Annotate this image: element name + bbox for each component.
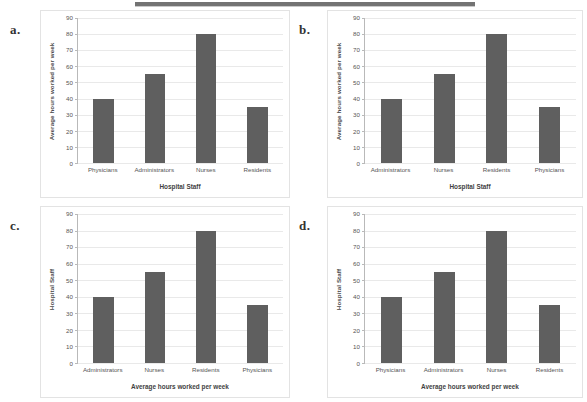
y-tick-label: 90 <box>353 211 360 217</box>
y-tick-label: 30 <box>66 112 73 118</box>
y-tick-label: 30 <box>353 112 360 118</box>
x-category-label: Residents <box>180 364 232 376</box>
y-axis-tick-labels-b: 0102030405060708090 <box>344 18 360 164</box>
y-tick-label: 40 <box>66 96 73 102</box>
y-tick-label: 20 <box>66 128 73 134</box>
y-tick-label: 50 <box>353 80 360 86</box>
y-tick-label: 40 <box>353 294 360 300</box>
chart-panel-b: b. Average hours worked per week01020304… <box>293 8 587 200</box>
x-category-label: Administrators <box>417 364 470 376</box>
y-tick-label: 70 <box>66 47 73 53</box>
bar-slot <box>232 18 283 163</box>
bar-slot <box>471 18 524 163</box>
y-tick-label: 80 <box>66 228 73 234</box>
x-category-label: Physicians <box>232 364 284 376</box>
chart-c: Hospital Staff0102030405060708090Adminis… <box>41 207 289 397</box>
chart-panel-a: a. Average hours worked per week01020304… <box>0 8 294 200</box>
y-tick-label: 60 <box>353 261 360 267</box>
bar-slot <box>418 18 471 163</box>
y-axis-title-text: Hospital Staff <box>49 268 56 309</box>
y-tick-label: 10 <box>353 344 360 350</box>
bar-physicians[interactable] <box>539 107 560 163</box>
y-tick-label: 30 <box>66 311 73 317</box>
bar-nurses[interactable] <box>196 34 217 163</box>
y-tick-label: 30 <box>353 311 360 317</box>
x-axis-category-labels-c: AdministratorsNursesResidentsPhysicians <box>77 364 283 376</box>
bar-slot <box>232 214 283 363</box>
x-axis-category-labels-d: PhysiciansAdministratorsNursesResidents <box>364 364 576 376</box>
scan-artifact-band-edge <box>135 6 475 7</box>
bar-slot <box>78 18 129 163</box>
y-tick-label: 90 <box>353 15 360 21</box>
bar-residents[interactable] <box>486 34 507 163</box>
y-tick-label: 60 <box>353 64 360 70</box>
bar-slot <box>129 214 180 363</box>
x-axis-category-labels-a: PhysiciansAdministratorsNursesResidents <box>77 164 283 176</box>
bar-residents[interactable] <box>539 305 560 363</box>
x-category-label: Residents <box>523 364 576 376</box>
chart-card-c: Hospital Staff0102030405060708090Adminis… <box>40 206 290 398</box>
bar-nurses[interactable] <box>434 74 455 163</box>
bar-administrators[interactable] <box>145 74 166 163</box>
bar-nurses[interactable] <box>145 272 166 363</box>
x-axis-title-d: Average hours worked per week <box>364 383 576 390</box>
bar-slot <box>365 18 418 163</box>
bar-slot <box>523 214 576 363</box>
x-category-label: Nurses <box>180 164 232 176</box>
y-tick-label: 80 <box>66 31 73 37</box>
x-category-label: Nurses <box>470 364 523 376</box>
y-tick-label: 80 <box>353 31 360 37</box>
y-tick-label: 70 <box>66 244 73 250</box>
y-tick-label: 50 <box>66 278 73 284</box>
bar-residents[interactable] <box>196 231 217 363</box>
plot-area-d <box>364 214 576 364</box>
bar-series-b <box>365 18 576 163</box>
y-tick-label: 10 <box>66 344 73 350</box>
bar-slot <box>471 214 524 363</box>
x-category-label: Administrators <box>129 164 181 176</box>
y-tick-label: 40 <box>66 294 73 300</box>
bar-physicians[interactable] <box>93 99 114 163</box>
y-tick-label: 40 <box>353 96 360 102</box>
bar-series-c <box>78 214 283 363</box>
y-tick-label: 0 <box>70 161 73 167</box>
x-category-label: Nurses <box>129 364 181 376</box>
bar-residents[interactable] <box>247 107 268 163</box>
chart-card-b: Average hours worked per week01020304050… <box>327 10 583 198</box>
bar-slot <box>129 18 180 163</box>
x-category-label: Physicians <box>523 164 576 176</box>
bar-physicians[interactable] <box>247 305 268 363</box>
bar-slot <box>365 214 418 363</box>
x-axis-title-c: Average hours worked per week <box>77 383 283 390</box>
x-category-label: Nurses <box>417 164 470 176</box>
bar-administrators[interactable] <box>93 297 114 363</box>
bar-administrators[interactable] <box>434 272 455 363</box>
y-axis-title-text: Average hours worked per week <box>336 42 343 140</box>
plot-area-b <box>364 18 576 164</box>
x-category-label: Physicians <box>77 164 129 176</box>
y-axis-tick-labels-d: 0102030405060708090 <box>344 214 360 364</box>
bar-slot <box>418 214 471 363</box>
y-tick-label: 10 <box>66 145 73 151</box>
x-category-label: Administrators <box>77 364 129 376</box>
y-tick-label: 20 <box>353 128 360 134</box>
y-tick-label: 50 <box>66 80 73 86</box>
bar-slot <box>181 18 232 163</box>
y-tick-label: 20 <box>353 328 360 334</box>
bar-series-d <box>365 214 576 363</box>
x-axis-title-a: Hospital Staff <box>77 183 283 190</box>
y-tick-label: 20 <box>66 328 73 334</box>
y-tick-label: 0 <box>70 361 73 367</box>
bar-administrators[interactable] <box>381 99 402 163</box>
x-category-label: Residents <box>470 164 523 176</box>
chart-card-a: Average hours worked per week01020304050… <box>40 10 290 198</box>
y-tick-label: 50 <box>353 278 360 284</box>
chart-panel-c: c. Hospital Staff0102030405060708090Admi… <box>0 204 294 400</box>
bar-nurses[interactable] <box>486 231 507 363</box>
y-tick-label: 0 <box>357 361 360 367</box>
y-axis-title-text: Average hours worked per week <box>49 42 56 140</box>
bar-physicians[interactable] <box>381 297 402 363</box>
y-tick-label: 60 <box>66 64 73 70</box>
bar-slot <box>181 214 232 363</box>
x-axis-title-b: Hospital Staff <box>364 183 576 190</box>
